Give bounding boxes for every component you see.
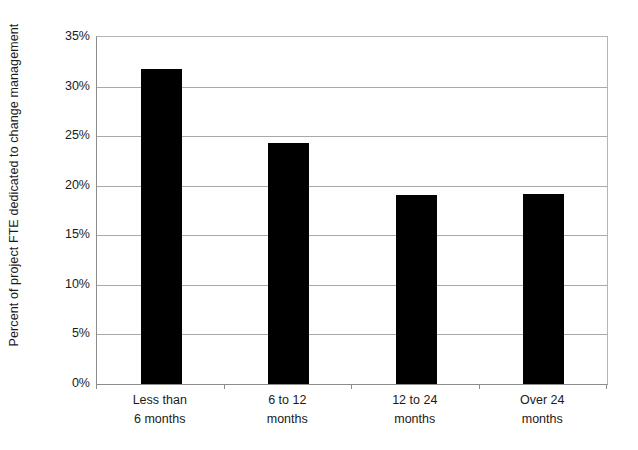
x-axis-tick-mark — [224, 384, 225, 389]
x-axis-tick-label-line: Less than — [96, 391, 224, 410]
x-axis-tick-label-line: 6 months — [96, 410, 224, 429]
y-axis-tick-label: 35% — [42, 28, 90, 44]
y-axis-tick-label: 0% — [42, 375, 90, 391]
y-axis-tick-labels: 0%5%10%15%20%25%30%35% — [42, 28, 90, 392]
bar — [523, 194, 564, 384]
y-axis-tick-label: 15% — [42, 226, 90, 242]
x-axis-tick-labels: Less than6 months6 to 12months12 to 24mo… — [96, 391, 608, 437]
x-axis-tick-mark — [606, 384, 607, 389]
bar — [268, 143, 309, 384]
x-axis-tick-label-line: months — [478, 410, 606, 429]
x-axis-tick-label-line: 6 to 12 — [223, 391, 351, 410]
y-axis-tick-label: 25% — [42, 127, 90, 143]
x-axis-tick-label: 6 to 12months — [223, 391, 351, 429]
y-axis-tick-label: 20% — [42, 177, 90, 193]
x-axis-tick-mark — [96, 384, 97, 389]
y-axis-title: Percent of project FTE dedicated to chan… — [0, 0, 28, 410]
y-axis-tick-label: 5% — [42, 325, 90, 341]
x-axis-tick-label: 12 to 24months — [351, 391, 479, 429]
plot-area — [96, 36, 608, 385]
bar — [141, 69, 182, 384]
y-axis-tick-label: 10% — [42, 276, 90, 292]
x-axis-tick-mark — [479, 384, 480, 389]
x-axis-tick-label-line: Over 24 — [478, 391, 606, 410]
x-axis-tick-mark — [351, 384, 352, 389]
x-axis-tick-label-line: months — [351, 410, 479, 429]
y-axis-title-text: Percent of project FTE dedicated to chan… — [7, 24, 22, 347]
x-axis-tick-label: Over 24months — [478, 391, 606, 429]
x-axis-tick-marks — [96, 384, 608, 390]
bar-chart-figure: Percent of project FTE dedicated to chan… — [0, 0, 638, 450]
y-axis-tick-label: 30% — [42, 78, 90, 94]
bars-layer — [97, 37, 607, 384]
x-axis-tick-label-line: months — [223, 410, 351, 429]
bar — [396, 195, 437, 384]
x-axis-tick-label: Less than6 months — [96, 391, 224, 429]
x-axis-tick-label-line: 12 to 24 — [351, 391, 479, 410]
